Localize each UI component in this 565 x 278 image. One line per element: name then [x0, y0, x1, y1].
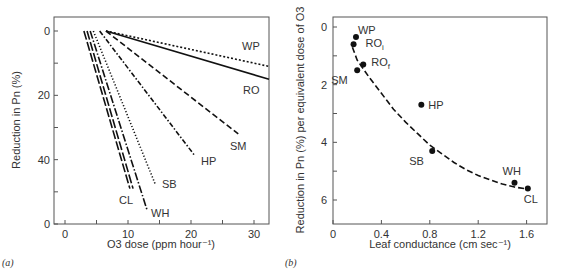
series-label-wp: WP — [242, 40, 260, 52]
point-label-sb: SB — [409, 155, 424, 167]
series-line-sm — [106, 31, 238, 134]
series-line-wh — [90, 31, 147, 210]
series-line-ro — [106, 31, 269, 79]
panel-b-x-axis-title: Leaf conductance (cm sec⁻¹) — [369, 238, 511, 250]
x-tick-label: 30 — [248, 228, 260, 240]
series-label-sb: SB — [162, 178, 177, 190]
data-point-rof — [360, 61, 366, 67]
point-label-sm: SM — [331, 74, 348, 86]
data-point-sb — [429, 148, 435, 154]
series-line-cl-b — [84, 31, 130, 189]
y-tick-label: 20 — [38, 89, 50, 101]
panel-a-label: (a) — [2, 257, 14, 269]
point-label-hp: HP — [428, 99, 443, 111]
panel-b-scatter-chart: 00.40.81.21.60246 WPROiROfSMHPSBWHCL Lea… — [285, 7, 547, 269]
figure: 0102030020400 WPROSMHPSBWHCL O3 dose (pp… — [0, 0, 565, 278]
x-tick-label: 1.6 — [519, 228, 534, 240]
series-label-cl: CL — [119, 194, 133, 206]
series-label-ro: RO — [243, 84, 260, 96]
series-label-hp: HP — [201, 155, 216, 167]
panel-b-label: (b) — [285, 257, 297, 269]
panel-b-axis-ticks: 00.40.81.21.60246 — [321, 21, 534, 240]
y-tick-label: 0 — [321, 21, 327, 33]
panel-b-y-axis-title: Reduction in Pn (%) per equivalent dose … — [294, 7, 306, 234]
panel-a-y-axis-title: Reduction in Pn (%) — [10, 71, 22, 169]
panel-a-line-chart: 0102030020400 WPROSMHPSBWHCL O3 dose (pp… — [2, 17, 269, 269]
y-tick-label: 2 — [321, 79, 327, 91]
panel-a-axis-ticks: 0102030020400 — [38, 25, 260, 240]
y-tick-label: 6 — [321, 194, 327, 206]
y-tick-label: 4 — [321, 136, 327, 148]
panel-a-x-axis-title: O3 dose (ppm hour⁻¹) — [107, 238, 215, 250]
x-tick-label: 0 — [62, 228, 68, 240]
panel-a-series-labels: WPROSMHPSBWHCL — [119, 40, 260, 219]
series-line-cl — [87, 31, 133, 189]
series-label-wh: WH — [151, 207, 169, 219]
panel-b-data-points: WPROiROfSMHPSBWHCL — [331, 24, 538, 205]
data-point-hp — [418, 102, 424, 108]
point-label-roi: ROi — [366, 37, 385, 52]
series-label-sm: SM — [230, 140, 247, 152]
y-tick-label: 0 — [44, 218, 50, 230]
point-label-rof: ROf — [371, 56, 391, 71]
point-label-cl: CL — [524, 193, 538, 205]
x-tick-label: 0 — [330, 228, 336, 240]
point-label-wh: WH — [503, 165, 521, 177]
data-point-cl — [525, 185, 531, 191]
y-tick-label: 40 — [38, 154, 50, 166]
point-label-wp: WP — [358, 24, 376, 36]
y-tick-label: 0 — [44, 25, 50, 37]
data-point-roi — [351, 41, 357, 47]
data-point-wh — [512, 180, 518, 186]
data-point-sm — [354, 67, 360, 73]
